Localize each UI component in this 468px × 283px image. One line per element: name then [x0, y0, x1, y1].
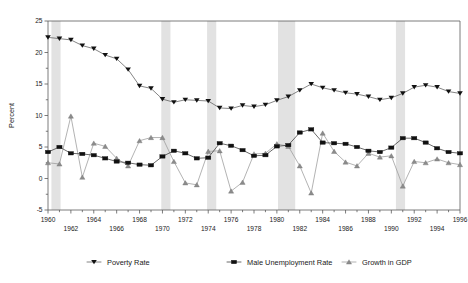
series-marker-male-unemployment-rate [286, 143, 291, 146]
series-marker-poverty-rate [434, 85, 440, 89]
series-marker-growth-in-gdp [91, 141, 96, 145]
series-marker-growth-in-gdp [80, 175, 85, 179]
y-tick-label-20: 20 [35, 49, 43, 56]
series-marker-male-unemployment-rate [171, 149, 176, 152]
recession-band-2 [161, 21, 170, 210]
x-tick-label-1964: 1964 [86, 216, 101, 223]
legend-label-poverty-rate: Poverty Rate [107, 258, 150, 267]
chart-figure: 2520151050-5Percent196019641968197219761… [0, 0, 468, 283]
x-tick-label-1966: 1966 [109, 225, 124, 232]
recession-band-4 [278, 21, 295, 210]
series-marker-male-unemployment-rate [377, 150, 382, 153]
legend-label-growth-in-gdp: Growth in GDP [362, 258, 412, 267]
x-tick-label-1974: 1974 [201, 225, 216, 232]
series-marker-growth-in-gdp [183, 181, 188, 185]
series-marker-male-unemployment-rate [343, 142, 348, 145]
series-marker-male-unemployment-rate [309, 128, 314, 131]
x-tick-label-1982: 1982 [292, 225, 307, 232]
x-tick-label-1992: 1992 [407, 216, 422, 223]
series-marker-male-unemployment-rate [114, 160, 119, 163]
x-tick-label-1962: 1962 [64, 225, 79, 232]
y-tick-label--5: -5 [37, 206, 43, 213]
x-tick-label-1980: 1980 [270, 216, 285, 223]
x-tick-label-1972: 1972 [178, 216, 193, 223]
series-marker-poverty-rate [411, 85, 417, 89]
series-marker-growth-in-gdp [435, 157, 440, 161]
series-marker-growth-in-gdp [171, 159, 176, 163]
series-marker-poverty-rate [297, 88, 303, 92]
series-marker-male-unemployment-rate [229, 144, 234, 147]
x-tick-label-1984: 1984 [315, 216, 330, 223]
series-marker-male-unemployment-rate [91, 153, 96, 156]
series-marker-growth-in-gdp [446, 160, 451, 164]
series-marker-male-unemployment-rate [457, 152, 462, 155]
series-marker-growth-in-gdp [103, 144, 108, 148]
x-tick-label-1986: 1986 [338, 225, 353, 232]
series-marker-male-unemployment-rate [366, 149, 371, 152]
x-tick-label-1960: 1960 [41, 216, 56, 223]
series-marker-poverty-rate [102, 53, 108, 57]
series-marker-male-unemployment-rate [297, 131, 302, 134]
legend-label-male-unemployment-rate: Male Unemployment Rate [247, 258, 332, 267]
x-tick-label-1996: 1996 [453, 216, 468, 223]
x-tick-label-1976: 1976 [224, 216, 239, 223]
series-marker-growth-in-gdp [137, 138, 142, 142]
series-marker-male-unemployment-rate [57, 145, 62, 148]
series-marker-male-unemployment-rate [400, 136, 405, 139]
x-tick-label-1988: 1988 [361, 216, 376, 223]
series-marker-male-unemployment-rate [103, 157, 108, 160]
series-marker-male-unemployment-rate [263, 153, 268, 156]
economic-indicators-line-chart: 2520151050-5Percent196019641968197219761… [0, 0, 468, 283]
series-marker-poverty-rate [91, 47, 97, 51]
series-marker-male-unemployment-rate [45, 150, 50, 153]
series-marker-growth-in-gdp [297, 164, 302, 168]
x-tick-label-1994: 1994 [430, 225, 445, 232]
y-tick-label-5: 5 [39, 143, 43, 150]
series-marker-growth-in-gdp [68, 114, 73, 118]
series-marker-male-unemployment-rate [148, 164, 153, 167]
legend-marker-male-unemployment-rate [231, 260, 236, 263]
series-marker-male-unemployment-rate [423, 141, 428, 144]
recession-band-5 [396, 21, 405, 210]
series-marker-male-unemployment-rate [137, 163, 142, 166]
x-tick-label-1990: 1990 [384, 225, 399, 232]
series-marker-male-unemployment-rate [320, 141, 325, 144]
series-marker-growth-in-gdp [309, 191, 314, 195]
series-marker-male-unemployment-rate [412, 136, 417, 139]
series-marker-male-unemployment-rate [80, 152, 85, 155]
series-marker-growth-in-gdp [320, 131, 325, 135]
series-marker-male-unemployment-rate [217, 142, 222, 145]
series-marker-poverty-rate [377, 98, 383, 102]
y-tick-label-15: 15 [35, 80, 43, 87]
series-marker-male-unemployment-rate [354, 145, 359, 148]
y-tick-label-0: 0 [39, 175, 43, 182]
recession-band-1 [51, 21, 60, 210]
series-marker-male-unemployment-rate [389, 146, 394, 149]
series-marker-growth-in-gdp [332, 149, 337, 153]
series-marker-male-unemployment-rate [206, 156, 211, 159]
series-marker-male-unemployment-rate [332, 142, 337, 145]
x-tick-label-1978: 1978 [247, 225, 262, 232]
y-tick-label-10: 10 [35, 112, 43, 119]
series-marker-male-unemployment-rate [126, 161, 131, 164]
series-marker-growth-in-gdp [240, 180, 245, 184]
series-marker-male-unemployment-rate [240, 148, 245, 151]
y-tick-label-25: 25 [35, 17, 43, 24]
x-tick-label-1968: 1968 [132, 216, 147, 223]
x-tick-label-1970: 1970 [155, 225, 170, 232]
series-marker-male-unemployment-rate [251, 154, 256, 157]
series-marker-poverty-rate [457, 91, 463, 95]
series-marker-male-unemployment-rate [446, 150, 451, 153]
series-marker-poverty-rate [125, 67, 131, 71]
y-axis-title: Percent [7, 103, 16, 128]
series-marker-male-unemployment-rate [435, 147, 440, 150]
series-marker-male-unemployment-rate [68, 152, 73, 155]
series-marker-male-unemployment-rate [160, 155, 165, 158]
series-marker-male-unemployment-rate [274, 145, 279, 148]
recession-band-3 [207, 21, 216, 210]
series-marker-poverty-rate [308, 82, 314, 86]
series-marker-male-unemployment-rate [183, 152, 188, 155]
series-marker-poverty-rate [366, 95, 372, 99]
series-marker-male-unemployment-rate [194, 157, 199, 160]
series-marker-poverty-rate [171, 100, 177, 104]
